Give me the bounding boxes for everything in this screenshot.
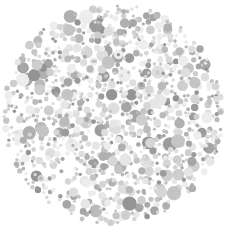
plate-dot xyxy=(39,177,43,181)
plate-dot xyxy=(88,123,91,126)
plate-dot xyxy=(136,114,148,126)
plate-dot xyxy=(115,63,120,68)
plate-dot xyxy=(88,165,92,169)
plate-dot xyxy=(130,211,134,215)
plate-dot xyxy=(157,34,163,40)
plate-dot xyxy=(96,101,103,108)
plate-dot xyxy=(35,127,38,130)
plate-dot xyxy=(73,200,76,203)
plate-dot xyxy=(185,79,190,84)
plate-dot xyxy=(89,37,94,42)
plate-dot xyxy=(167,125,171,129)
ishihara-plate: Ishihara-style color vision test plate (… xyxy=(0,0,226,228)
plate-dot xyxy=(215,136,219,140)
plate-dot xyxy=(201,168,208,175)
plate-dot xyxy=(119,100,122,103)
plate-dot xyxy=(75,167,78,170)
plate-dot xyxy=(97,117,102,122)
plate-dot xyxy=(53,137,57,141)
plate-dot xyxy=(190,94,200,104)
plate-dot xyxy=(116,205,121,210)
plate-dot xyxy=(135,26,140,31)
plate-dot xyxy=(145,138,155,148)
plate-dot xyxy=(171,134,185,148)
plate-dot xyxy=(61,129,69,137)
plate-dot xyxy=(168,147,173,152)
plate-dot xyxy=(219,128,222,131)
plate-dot xyxy=(16,73,30,87)
plate-dot xyxy=(181,154,184,157)
plate-dot xyxy=(28,132,32,136)
plate-dot xyxy=(153,119,161,127)
plate-dot xyxy=(88,85,91,88)
plate-dot xyxy=(163,155,168,160)
plate-dot xyxy=(77,195,81,199)
plate-dot xyxy=(69,187,78,196)
plate-dot xyxy=(149,118,152,121)
plate-dot xyxy=(198,56,201,59)
plate-dot xyxy=(129,79,136,86)
plate-dot xyxy=(25,117,29,121)
plate-dot xyxy=(156,187,167,198)
plate-dot xyxy=(24,145,27,148)
plate-dot xyxy=(15,59,21,65)
plate-dot xyxy=(133,35,137,39)
plate-dot xyxy=(196,64,202,70)
plate-dot xyxy=(93,59,97,63)
plate-dot xyxy=(119,90,122,93)
plate-dot xyxy=(70,212,73,215)
plate-dot xyxy=(201,157,205,161)
plate-dot xyxy=(104,218,109,223)
plate-dot xyxy=(189,77,201,89)
plate-dot xyxy=(51,37,54,40)
plate-dot xyxy=(185,149,192,156)
plate-dot xyxy=(145,85,153,93)
plate-dot xyxy=(75,78,81,84)
plate-dot xyxy=(191,129,194,132)
plate-dot xyxy=(71,102,74,105)
plate-dot xyxy=(107,79,110,82)
plate-dot xyxy=(94,162,97,165)
plate-dot xyxy=(94,45,100,51)
plate-dot xyxy=(68,134,72,138)
plate-dot xyxy=(187,111,191,115)
plate-dot xyxy=(196,53,200,57)
plate-dot xyxy=(59,77,64,82)
plate-dot xyxy=(16,116,24,124)
plate-dot xyxy=(136,190,140,194)
plate-dot xyxy=(156,162,159,165)
plate-dot xyxy=(7,104,10,107)
plate-dot xyxy=(78,151,84,157)
plate-dot xyxy=(173,39,176,42)
plate-dot xyxy=(133,50,140,57)
plate-dot xyxy=(42,59,45,62)
plate-dot xyxy=(117,53,120,56)
plate-dot xyxy=(109,110,112,113)
plate-dot xyxy=(80,199,90,209)
plate-dot xyxy=(57,24,63,30)
plate-dot xyxy=(154,137,159,142)
plate-dot xyxy=(82,42,85,45)
plate-dot xyxy=(47,54,50,57)
plate-dot xyxy=(16,90,19,93)
plate-dot xyxy=(196,45,203,52)
plate-dot xyxy=(52,86,55,89)
plate-dot xyxy=(207,88,210,91)
plate-dot xyxy=(82,178,91,187)
plate-dot xyxy=(166,165,169,168)
plate-dot xyxy=(98,124,104,130)
plate-dot xyxy=(19,93,24,98)
plate-dot xyxy=(134,157,140,163)
plate-dot xyxy=(98,215,104,221)
plate-dot xyxy=(54,114,58,118)
plate-dot xyxy=(57,114,62,119)
plate-dot xyxy=(86,98,89,101)
plate-dot xyxy=(187,157,196,166)
plate-dot xyxy=(4,91,12,99)
plate-dot xyxy=(72,44,81,53)
plate-dot xyxy=(159,112,166,119)
plate-dot xyxy=(54,74,58,78)
plate-dot xyxy=(3,118,9,124)
plate-dot xyxy=(146,25,155,34)
plate-dot xyxy=(182,103,186,107)
